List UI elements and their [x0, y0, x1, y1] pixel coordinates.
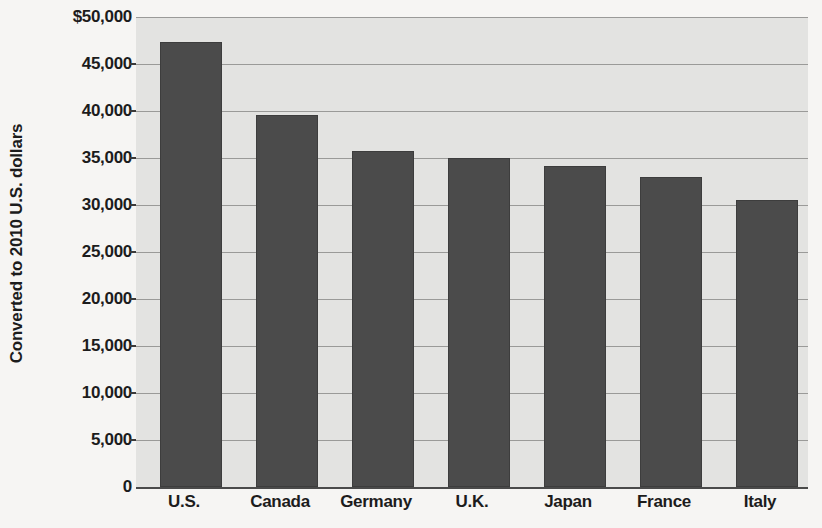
bar-u-k: [448, 158, 510, 487]
bar-canada: [256, 115, 318, 487]
x-axis-labels: U.S.CanadaGermanyU.K.JapanFranceItaly: [136, 492, 808, 522]
y-tick-label: 10,000: [6, 383, 132, 403]
x-tick-label: Italy: [712, 492, 808, 512]
bar-germany: [352, 151, 414, 487]
y-axis-ticks: 05,00010,00015,00020,00025,00030,00035,0…: [0, 0, 132, 528]
x-tick-label: Japan: [520, 492, 616, 512]
y-tick-label: $50,000: [6, 7, 132, 27]
bar-u-s: [160, 42, 222, 487]
gridline: [136, 64, 808, 65]
gridline: [136, 17, 808, 18]
y-tick-label: 45,000: [6, 54, 132, 74]
bar-france: [640, 177, 702, 487]
y-tick-label: 20,000: [6, 289, 132, 309]
bar-japan: [544, 166, 606, 487]
y-tick-label: 15,000: [6, 336, 132, 356]
y-tick-label: 30,000: [6, 195, 132, 215]
gridline: [136, 111, 808, 112]
x-tick-label: France: [616, 492, 712, 512]
x-axis-line: [136, 487, 808, 489]
y-tick-label: 40,000: [6, 101, 132, 121]
bar-chart-figure: Converted to 2010 U.S. dollars 05,00010,…: [0, 0, 822, 528]
y-tick-label: 5,000: [6, 430, 132, 450]
x-tick-label: U.S.: [136, 492, 232, 512]
bar-italy: [736, 200, 798, 487]
x-tick-label: Germany: [328, 492, 424, 512]
y-tick-label: 35,000: [6, 148, 132, 168]
y-tick-label: 25,000: [6, 242, 132, 262]
x-tick-label: Canada: [232, 492, 328, 512]
y-tick-label: 0: [6, 477, 132, 497]
x-tick-label: U.K.: [424, 492, 520, 512]
plot-area: [136, 17, 808, 487]
